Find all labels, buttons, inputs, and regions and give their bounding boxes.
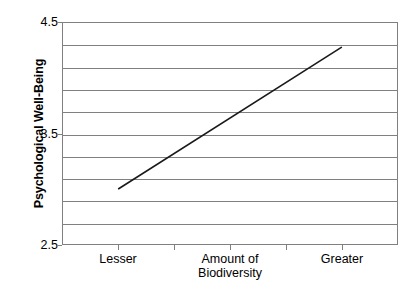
series-line-psychological-well-being — [119, 47, 342, 188]
plot-area — [62, 22, 398, 245]
x-category-label-lesser: Lesser — [99, 252, 137, 266]
y-tickmark-2-5 — [57, 245, 62, 246]
page-bleed-text — [0, 290, 415, 299]
line-chart-figure: Psychological Well-Being 4.5 3.5 2.5 Les… — [0, 0, 415, 299]
data-series-layer — [63, 23, 397, 244]
x-axis-title-line-2: Biodiversity — [198, 266, 262, 280]
x-category-label-greater: Greater — [321, 252, 363, 266]
x-tickmark-4 — [286, 245, 287, 250]
x-axis-title: Amount of Biodiversity — [198, 252, 262, 280]
y-tick-label-4-5: 4.5 — [30, 16, 58, 29]
x-tickmark-1 — [118, 245, 119, 250]
x-axis-title-line-1: Amount of — [198, 252, 262, 266]
x-tickmark-5 — [342, 245, 343, 250]
y-axis-tick-labels: 4.5 3.5 2.5 — [28, 0, 58, 299]
x-tickmark-2 — [174, 245, 175, 250]
y-tick-label-2-5: 2.5 — [30, 239, 58, 252]
y-tick-label-3-5: 3.5 — [30, 128, 58, 141]
x-tickmark-3 — [230, 245, 231, 250]
